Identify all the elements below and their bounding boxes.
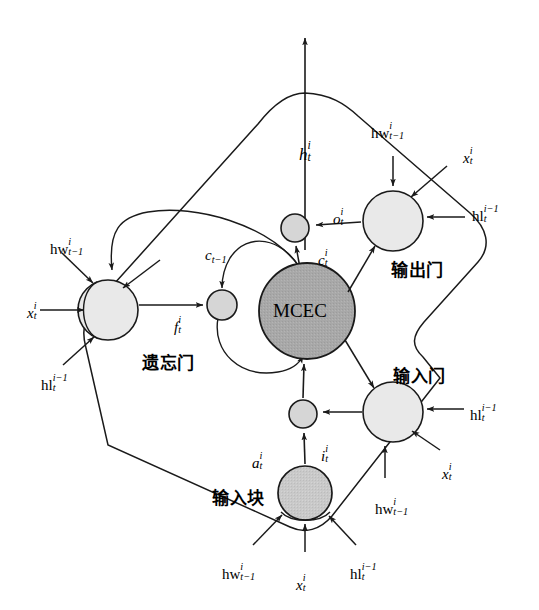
a-t-label: ait: [252, 451, 262, 472]
o-t-label-sub: t: [341, 217, 344, 227]
c-t-label-sub: t: [325, 258, 328, 268]
input-block-hw-label-sub: t−1: [240, 572, 255, 582]
c-t-label: cit: [318, 248, 328, 269]
mult-top-node: [281, 214, 309, 242]
mult-left-node: [207, 290, 237, 320]
input-gate-x-label: xit: [442, 462, 452, 483]
o-t-label-base: o: [333, 211, 341, 227]
input-block-hw-label-base: hw: [222, 566, 240, 582]
output-gate-hl-label-sub: t: [484, 214, 499, 224]
forget-gate-hl-label-sub: t: [53, 383, 68, 393]
input-block-hl-label-subsup: i−1t: [362, 562, 377, 583]
c-prev-label: ct−1: [205, 248, 226, 265]
forget-gate-hl-label: hli−1t: [41, 373, 67, 394]
forget-gate-hw-label-sub: t−1: [68, 247, 83, 257]
input-gate-x-label-base: x: [442, 466, 449, 482]
a-t-label-subsup: it: [260, 451, 263, 472]
forget-gate-node[interactable]: [78, 280, 138, 340]
output-gate-hl-label-subsup: i−1t: [484, 204, 499, 225]
input-block-hw-label-subsup: it−1: [240, 562, 255, 583]
c-t-label-base: c: [318, 252, 325, 268]
input-block-x-label-sub: t: [303, 583, 306, 593]
mcec-to-output-gate-arrow: [348, 246, 375, 292]
input-block-x-label: xit: [296, 573, 306, 594]
output-gate-hw-label-sub: t−1: [389, 131, 404, 141]
input-gate-name: 输入门: [393, 368, 446, 385]
c-prev-label-sub: t−1: [212, 254, 227, 265]
input-gate-hw-label-base: hw: [375, 501, 393, 517]
c-prev-label-base: c: [205, 247, 212, 263]
h-output-label-base: h: [299, 145, 308, 164]
i-t-label-sub: t: [325, 454, 328, 464]
input-gate-x-label-subsup: it: [449, 462, 452, 483]
input-gate-hw-label-subsup: it−1: [393, 497, 408, 518]
input-gate-hl-label-sub: t: [482, 413, 497, 423]
mult-bottom-node: [289, 400, 317, 428]
h-output-label-subsup: it: [308, 140, 311, 164]
i-t-label: iit: [321, 444, 328, 465]
forget-gate-x-label-sub: t: [34, 311, 37, 321]
output-gate-hw-label-base: hw: [371, 125, 389, 141]
input-block-hw-label: hwit−1: [222, 562, 255, 583]
f-t-label-subsup: it: [178, 315, 181, 336]
mcec-label: MCEC: [273, 301, 327, 320]
input-block-hl-label-sub: t: [362, 572, 377, 582]
output-gate-hw-label: hwit−1: [371, 121, 404, 142]
input-gate-hl-label-subsup: i−1t: [482, 403, 497, 424]
output-gate-x-label: xit: [463, 146, 473, 167]
c-t-label-subsup: it: [325, 248, 328, 269]
f-t-label-sub: t: [178, 325, 181, 335]
f-t-label: fit: [174, 315, 181, 336]
input-gate-hw-label: hwit−1: [375, 497, 408, 518]
forget-gate-hw-label: hwit−1: [50, 237, 83, 258]
output-gate-x-label-subsup: it: [470, 146, 473, 167]
a-t-label-sub: t: [260, 461, 263, 471]
h-output-label-sub: t: [308, 152, 311, 164]
forget-gate-hl-label-subsup: i−1t: [53, 373, 68, 394]
lstm-cell-diagram: [0, 0, 539, 610]
forget-gate-hw-label-base: hw: [50, 241, 68, 257]
diagram-canvas: hithwit−1xithli−1toitcitct−1hwit−1xithli…: [0, 0, 539, 610]
forget-gate-x-label-base: x: [27, 305, 34, 321]
forget-gate-hl-label-base: hl: [41, 377, 53, 393]
o-t-label: oit: [333, 207, 343, 228]
h-output-label: hit: [299, 140, 311, 164]
input-block-x-label-subsup: it: [303, 573, 306, 594]
output-gate-hw-label-subsup: it−1: [389, 121, 404, 142]
input-block-x-label-base: x: [296, 577, 303, 593]
output-gate-name: 输出门: [391, 262, 444, 279]
input-block-to-mult-arrow: [304, 433, 305, 464]
input-gate-hw-label-sub: t−1: [393, 507, 408, 517]
output-gate-hl-label: hli−1t: [472, 204, 498, 225]
a-t-label-base: a: [252, 455, 260, 471]
output-gate-x-label-base: x: [463, 150, 470, 166]
input-gate-hl-label: hli−1t: [470, 403, 496, 424]
o-t-label-subsup: it: [341, 207, 344, 228]
forget-gate-hw-label-subsup: it−1: [68, 237, 83, 258]
output-gate-hl-label-base: hl: [472, 208, 484, 224]
forget-gate-x-label-subsup: it: [34, 301, 37, 322]
h-output-label-sup: i: [308, 140, 311, 152]
input-gate-x-label-sub: t: [449, 472, 452, 482]
input-block-node[interactable]: [278, 466, 332, 520]
input-block-hl-label: hli−1t: [350, 562, 376, 583]
mcec-to-input-gate-arrow: [345, 340, 374, 388]
input-block-name: 输入块: [212, 490, 265, 507]
input-gate-hl-label-base: hl: [470, 407, 482, 423]
i-t-label-subsup: it: [325, 444, 328, 465]
input-block-hl-label-base: hl: [350, 566, 362, 582]
output-gate-node[interactable]: [363, 191, 423, 251]
forget-gate-name: 遗忘门: [142, 355, 195, 372]
forget-gate-x-label: xit: [27, 301, 37, 322]
mult-bottom-to-mcec-arrow: [303, 364, 304, 398]
output-gate-x-label-sub: t: [470, 156, 473, 166]
